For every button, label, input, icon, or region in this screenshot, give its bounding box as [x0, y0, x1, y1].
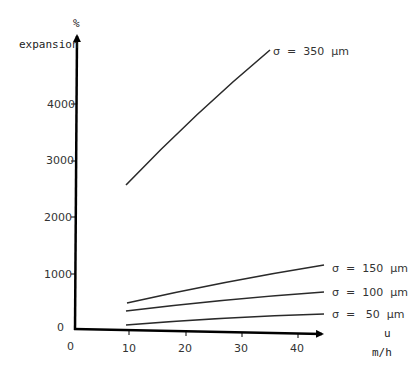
y-tick-2000: 2000 — [44, 211, 72, 224]
series-label-150um: σ = 150 µm — [332, 262, 408, 275]
y-tick-3000: 3000 — [46, 154, 74, 167]
x-tick-20: 20 — [178, 342, 192, 355]
y-axis — [75, 36, 77, 330]
series-label-100um: σ = 100 µm — [332, 286, 408, 299]
x-axis-label: u — [384, 327, 391, 340]
x-tick-0: 0 — [67, 340, 74, 353]
series-line-150um — [127, 265, 324, 303]
x-axis-unit: m/h — [372, 346, 392, 359]
y-tick-0: 0 — [57, 321, 64, 334]
y-tick-1000: 1000 — [44, 268, 72, 281]
y-axis-label: expansion — [19, 38, 79, 51]
x-tick-10: 10 — [122, 342, 136, 355]
series-label-50um: σ = 50 µm — [332, 308, 404, 321]
expansion-chart: % expansion u m/h 0 1000 2000 3000 4000 … — [0, 0, 410, 374]
y-axis-unit: % — [73, 17, 80, 30]
x-tick-30: 30 — [234, 342, 248, 355]
series-line-50um — [126, 314, 324, 325]
series-line-350um — [126, 50, 270, 185]
series-label-350um: σ = 350 µm — [273, 45, 349, 58]
x-tick-40: 40 — [290, 342, 304, 355]
x-axis — [74, 329, 322, 334]
series-line-100um — [126, 292, 324, 311]
y-tick-4000: 4000 — [47, 98, 75, 111]
